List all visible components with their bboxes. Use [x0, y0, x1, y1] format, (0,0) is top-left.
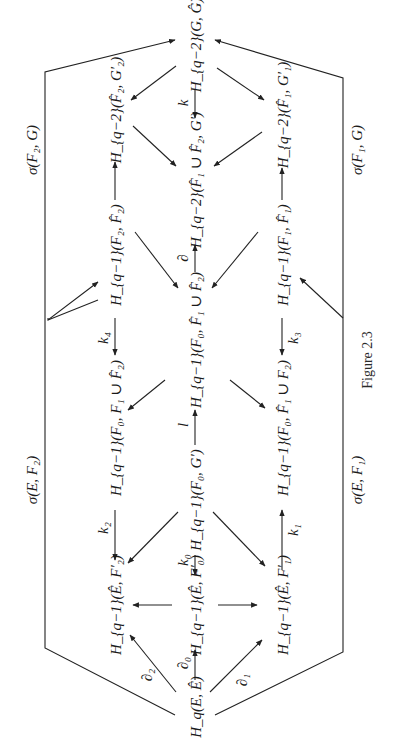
label-sigma-E-F1: σ(E, F₁): [349, 456, 366, 504]
node-hq1-F0-F1hat-F2hat: H_{q−1}(F₀, F̂₁ ∪ F̂₂): [188, 272, 205, 409]
arrow-sigma-E-F1-upper: [300, 278, 343, 318]
label-k4: k₄: [95, 332, 111, 344]
node-hq1-F0-F1-F2hat: H_{q−1}(F₀, F₁ ∪ F̂₂): [108, 360, 125, 497]
node-hq1-F1-F1hat: H_{q−1}(F₁, F̂₁): [275, 204, 292, 307]
label-k0: k₀: [175, 554, 191, 566]
label-d2: ∂₂: [139, 669, 155, 682]
node-hq2-G-Ghat: H_{q−2}(G, Ĝ): [188, 0, 205, 93]
label-d0: ∂₀: [175, 657, 191, 670]
node-hq2-F1hat-F2hat-Gp: H_{q−2}(F̂₁ ∪ F̂₂, G′): [188, 112, 205, 249]
node-hq-E-Ehat: H_q(E, Ê): [188, 676, 205, 739]
node-hq1-F2-F2hat: H_{q−1}(F₂, F̂₂): [108, 204, 125, 307]
arrow-left-to-center-lower: [128, 380, 165, 410]
arrow-right-to-center-lower: [230, 380, 265, 408]
label-k: k: [175, 99, 191, 106]
label-k2: k₂: [95, 522, 111, 534]
label-sigma-F2-G: σ(F₂, G): [24, 125, 41, 175]
node-hq1-Ehat-F1p: H_{q−1}(Ê, F′₁): [275, 555, 292, 656]
label-sigma-E-F2: σ(E, F₂): [24, 456, 41, 504]
arrow-G-to-left: [131, 66, 176, 100]
commutative-diagram: H_q(E, Ê) H_{q−1}(Ê, F′₂) H_{q−1}(Ê, F′₀…: [0, 0, 398, 756]
node-hq1-Ehat-F2p: H_{q−1}(Ê, F′₂): [108, 555, 125, 656]
label-l: l: [175, 423, 191, 427]
arrow-sigma-F2-G-lower: [48, 300, 98, 320]
node-hq1-Ehat-F0p: H_{q−1}(Ê, F′₀): [188, 555, 205, 656]
node-hq1-F0-Gp: H_{q−1}(F₀, G′): [188, 449, 205, 551]
arrow-d2: [130, 635, 176, 692]
arrow-F2-to-center: [135, 232, 178, 288]
arrow-G2-to-center: [133, 126, 176, 166]
arrow-G1-to-center: [214, 132, 262, 166]
label-d1: ∂₁: [234, 674, 250, 687]
arrow-Gp-to-left: [128, 512, 178, 563]
arrow-F1-to-center: [212, 232, 258, 288]
arrow-G-to-right: [217, 68, 264, 100]
figure-caption: Figure 2.3: [360, 331, 375, 389]
arrow-sigma-E-F2-upper: [48, 282, 98, 320]
nodes: H_q(E, Ê) H_{q−1}(Ê, F′₂) H_{q−1}(Ê, F′₀…: [108, 0, 292, 739]
label-k1: k₁: [285, 524, 301, 536]
node-hq2-F2hat-G2p: H_{q−2}(F̂₂, G′₂): [108, 57, 125, 165]
label-sigma-F1-G: σ(F₁, G): [349, 125, 366, 175]
label-d: ∂: [175, 254, 191, 261]
arrow-Gp-to-right: [213, 512, 265, 566]
node-hq1-F0-F1hat-F2: H_{q−1}(F₀, F̂₁ ∪ F₂): [275, 360, 292, 497]
label-k3: k₃: [285, 332, 301, 344]
node-hq2-F1hat-G1p: H_{q−2}(F̂₁, G′₁): [275, 62, 292, 170]
